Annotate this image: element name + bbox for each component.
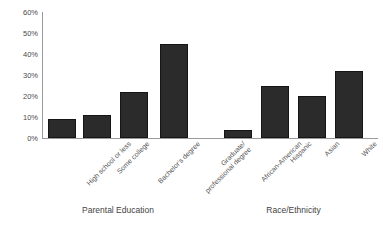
- y-axis-tick-label: 30%: [0, 71, 38, 80]
- group-title-race-ethnicity: Race/Ethnicity: [266, 205, 320, 215]
- bar: [160, 44, 188, 139]
- x-axis-category-labels: High school or less Some college Bachelo…: [42, 140, 378, 198]
- category-label-text: Bachelor's degree: [156, 140, 201, 185]
- bar: [261, 86, 289, 139]
- group-title-parental-education: Parental Education: [82, 205, 154, 215]
- bar: [83, 115, 111, 138]
- category-label-white: White: [360, 140, 378, 158]
- bar-chart: 60%50%40%30%20%10%0% High school or less…: [0, 0, 383, 239]
- y-axis-tick-label: 0%: [0, 134, 38, 143]
- x-axis-line: [42, 138, 378, 139]
- category-label-graduate-professional-degree: Graduate/ professional degree: [198, 140, 253, 195]
- bar: [335, 71, 363, 138]
- category-label-text: Asian: [323, 140, 340, 157]
- category-label-bachelors-degree: Bachelor's degree: [156, 140, 202, 186]
- bar: [298, 96, 326, 138]
- bars-container: [42, 12, 378, 138]
- y-axis-tick-label: 10%: [0, 113, 38, 122]
- y-axis-tick-label: 40%: [0, 50, 38, 59]
- category-label-text: White: [360, 140, 378, 158]
- bar: [120, 92, 148, 138]
- y-axis-tick-label: 60%: [0, 8, 38, 17]
- bar: [48, 119, 76, 138]
- y-axis-tick-label: 50%: [0, 29, 38, 38]
- category-label-asian: Asian: [323, 140, 341, 158]
- bar: [224, 130, 252, 138]
- y-axis-tick-label: 20%: [0, 92, 38, 101]
